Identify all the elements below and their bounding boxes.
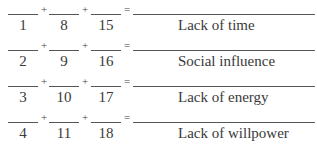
answer-blank-2[interactable]: [8, 36, 38, 51]
answer-blank-1[interactable]: [8, 0, 38, 15]
score-row-social-influence: 2 + 9 + 16 = Social influence: [0, 36, 317, 72]
total-blank-lack-of-time[interactable]: [133, 0, 315, 15]
plus-sign: +: [41, 111, 47, 123]
plus-sign: +: [41, 75, 47, 87]
answer-blank-10[interactable]: [49, 72, 79, 87]
category-label: Social influence: [178, 52, 275, 70]
equals-sign: =: [124, 75, 130, 87]
answer-blank-3[interactable]: [8, 72, 38, 87]
answer-blank-17[interactable]: [91, 72, 121, 87]
answer-blank-9[interactable]: [49, 36, 79, 51]
plus-sign: +: [41, 3, 47, 15]
answer-blank-16[interactable]: [91, 36, 121, 51]
category-label: Lack of willpower: [178, 124, 289, 142]
total-blank-lack-of-energy[interactable]: [133, 72, 315, 87]
total-blank-social-influence[interactable]: [133, 36, 315, 51]
plus-sign: +: [82, 39, 88, 51]
plus-sign: +: [82, 75, 88, 87]
total-blank-lack-of-willpower[interactable]: [133, 108, 315, 123]
equals-sign: =: [124, 39, 130, 51]
item-number: 11: [49, 124, 79, 142]
category-label: Lack of energy: [178, 88, 269, 106]
answer-blank-8[interactable]: [49, 0, 79, 15]
score-row-lack-of-energy: 3 + 10 + 17 = Lack of energy: [0, 72, 317, 108]
item-number: 15: [91, 16, 121, 34]
item-number: 10: [49, 88, 79, 106]
item-number: 3: [8, 88, 38, 106]
item-number: 18: [91, 124, 121, 142]
item-number: 1: [8, 16, 38, 34]
plus-sign: +: [82, 3, 88, 15]
item-number: 4: [8, 124, 38, 142]
score-row-lack-of-time: 1 + 8 + 15 = Lack of time: [0, 0, 317, 36]
answer-blank-4[interactable]: [8, 108, 38, 123]
item-number: 9: [49, 52, 79, 70]
score-row-lack-of-willpower: 4 + 11 + 18 = Lack of willpower: [0, 108, 317, 144]
answer-blank-18[interactable]: [91, 108, 121, 123]
category-label: Lack of time: [178, 16, 255, 34]
answer-blank-11[interactable]: [49, 108, 79, 123]
item-number: 8: [49, 16, 79, 34]
item-number: 17: [91, 88, 121, 106]
answer-blank-15[interactable]: [91, 0, 121, 15]
item-number: 16: [91, 52, 121, 70]
equals-sign: =: [124, 3, 130, 15]
plus-sign: +: [41, 39, 47, 51]
equals-sign: =: [124, 111, 130, 123]
plus-sign: +: [82, 111, 88, 123]
item-number: 2: [8, 52, 38, 70]
